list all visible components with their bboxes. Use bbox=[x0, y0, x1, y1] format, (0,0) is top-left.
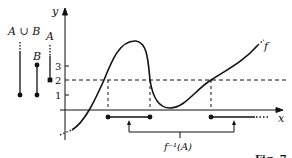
figure: A ∪ B B A y x 3 2 1 f f⁻¹(A) bbox=[0, 0, 292, 158]
tick-2: 2 bbox=[55, 75, 61, 86]
curve-label-f: f bbox=[263, 40, 270, 53]
preimage-label: f⁻¹(A) bbox=[163, 141, 192, 152]
set-label-union: A ∪ B bbox=[7, 25, 40, 38]
x-axis-label: x bbox=[278, 112, 285, 125]
tick-1: 1 bbox=[55, 90, 61, 101]
preimage-drops bbox=[108, 80, 211, 110]
axes bbox=[60, 8, 283, 140]
preimage-bracket bbox=[129, 122, 234, 138]
set-label-a: A bbox=[45, 30, 54, 43]
set-label-b: B bbox=[32, 50, 41, 63]
tick-3: 3 bbox=[55, 61, 61, 72]
preimage-intervals bbox=[106, 115, 270, 119]
y-axis-label: y bbox=[51, 5, 59, 18]
figure-caption: Fig. 7 bbox=[255, 153, 287, 158]
